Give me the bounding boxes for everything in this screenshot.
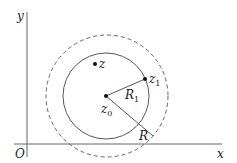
diagram-canvas: y x O z z0 z1 R1 R xyxy=(0,0,237,163)
point-z0-label: z0 xyxy=(100,102,112,118)
point-z0 xyxy=(104,94,108,98)
point-z1-label: z1 xyxy=(148,72,160,88)
point-z1 xyxy=(143,77,147,81)
origin-label: O xyxy=(15,147,25,161)
point-z xyxy=(93,62,97,66)
x-axis-label: x xyxy=(217,147,224,161)
y-axis-label: y xyxy=(16,9,24,23)
radius-R-label: R xyxy=(138,129,148,143)
radius-R1-label: R1 xyxy=(124,88,139,104)
point-z-label: z xyxy=(98,57,106,71)
